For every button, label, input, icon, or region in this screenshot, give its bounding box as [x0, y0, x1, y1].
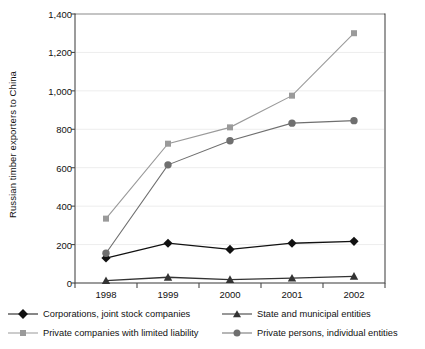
legend-marker-square-icon — [8, 327, 38, 339]
data-point-circle — [164, 161, 171, 168]
legend-marker-circle-icon — [222, 327, 252, 339]
data-point-circle — [102, 250, 109, 257]
data-point-circle — [350, 117, 357, 124]
legend-marker-diamond-icon — [8, 308, 38, 320]
legend-label: Private companies with limited liability — [43, 328, 199, 338]
legend-marker-glyph — [18, 309, 28, 319]
chart-container: Russian timber exporters to China 020040… — [0, 0, 425, 349]
data-point-square — [351, 30, 357, 36]
x-axis-tick-labels: 19981999200020012002 — [0, 289, 425, 305]
x-axis-tick-label: 1998 — [95, 289, 116, 300]
data-point-circle — [226, 137, 233, 144]
legend-item[interactable]: State and municipal entities — [222, 308, 371, 320]
y-axis-ticks — [71, 14, 75, 283]
x-axis-tick-label: 2002 — [343, 289, 364, 300]
legend-item[interactable]: Corporations, joint stock companies — [8, 308, 190, 320]
legend-marker-glyph — [233, 310, 241, 317]
data-point-square — [227, 124, 233, 130]
x-axis-tick-label: 2000 — [219, 289, 240, 300]
chart-legend: Corporations, joint stock companiesPriva… — [0, 306, 425, 349]
data-point-square — [165, 141, 171, 147]
chart-plot-area — [0, 0, 425, 300]
plot-frame — [75, 14, 385, 283]
x-axis-tick-label: 1999 — [157, 289, 178, 300]
data-point-circle — [288, 119, 295, 126]
legend-marker-triangle-icon — [222, 308, 252, 320]
data-point-square — [289, 93, 295, 99]
plot-border — [75, 14, 385, 283]
legend-marker-glyph — [20, 330, 26, 336]
legend-label: State and municipal entities — [257, 309, 371, 319]
legend-item[interactable]: Private persons, individual entities — [222, 327, 398, 339]
legend-label: Corporations, joint stock companies — [43, 309, 190, 319]
legend-item[interactable]: Private companies with limited liability — [8, 327, 199, 339]
legend-label: Private persons, individual entities — [257, 328, 398, 338]
data-point-square — [103, 216, 109, 222]
legend-marker-glyph — [234, 330, 241, 337]
x-axis-ticks — [75, 283, 385, 288]
x-axis-tick-label: 2001 — [281, 289, 302, 300]
